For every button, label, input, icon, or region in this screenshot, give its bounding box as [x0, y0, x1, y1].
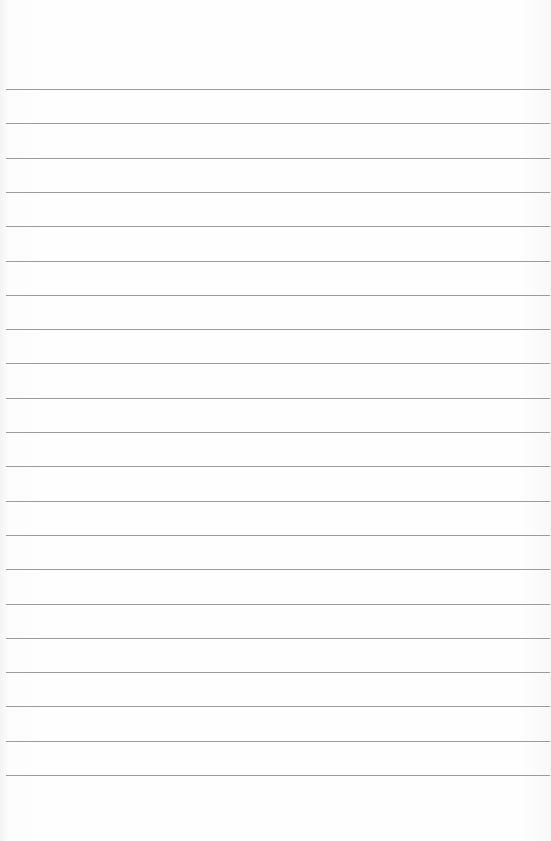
ruled-line — [6, 604, 550, 605]
ruled-line — [6, 501, 550, 502]
ruled-line — [6, 89, 550, 90]
ruled-line — [6, 535, 550, 536]
ruled-line — [6, 672, 550, 673]
ruled-line — [6, 363, 550, 364]
ruled-line — [6, 261, 550, 262]
ruled-line — [6, 226, 550, 227]
ruled-line — [6, 775, 550, 776]
lined-paper — [0, 0, 551, 841]
ruled-line — [6, 329, 550, 330]
ruled-line — [6, 741, 550, 742]
ruled-line — [6, 466, 550, 467]
ruled-line — [6, 398, 550, 399]
ruled-line — [6, 569, 550, 570]
ruled-line — [6, 432, 550, 433]
ruled-line — [6, 706, 550, 707]
ruled-line — [6, 123, 550, 124]
ruled-line — [6, 295, 550, 296]
ruled-line — [6, 158, 550, 159]
ruled-line — [6, 192, 550, 193]
ruled-line — [6, 638, 550, 639]
